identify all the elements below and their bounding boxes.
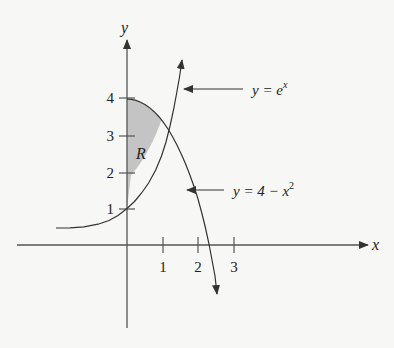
label-exponential-sup: x xyxy=(282,79,288,90)
label-parabola: y = 4 − x2 xyxy=(231,180,294,199)
x-axis-label: x xyxy=(371,236,379,253)
x-tick-label-1: 1 xyxy=(159,259,167,275)
curve-exponential xyxy=(56,60,182,228)
label-exponential-base: y = e xyxy=(250,82,283,98)
label-parabola-base: y = 4 − x xyxy=(231,183,289,199)
label-parabola-sup: 2 xyxy=(289,180,294,191)
x-tick-label-3: 3 xyxy=(230,259,238,275)
y-axis-label: y xyxy=(119,19,129,37)
y-tick-label-2: 2 xyxy=(107,165,115,181)
diagram: 1 2 3 1 2 3 4 x y R y = ex y = 4 − x2 xyxy=(0,0,394,348)
region-label: R xyxy=(135,145,146,162)
x-tick-label-2: 2 xyxy=(194,259,202,275)
y-tick-label-3: 3 xyxy=(107,128,115,144)
y-tick-label-1: 1 xyxy=(107,201,115,217)
label-exponential: y = ex xyxy=(250,79,288,98)
y-tick-label-4: 4 xyxy=(107,90,115,106)
